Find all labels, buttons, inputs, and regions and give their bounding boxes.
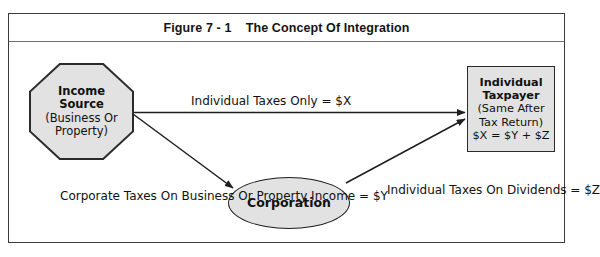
income-source-line-4: Property) xyxy=(55,125,108,138)
figure-title-bar: Figure 7 - 1 The Concept Of Integration xyxy=(9,14,564,42)
edge-label-individual-taxes-only: Individual Taxes Only = $X xyxy=(191,94,351,109)
individual-taxpayer-line-5: $X = $Y + $Z xyxy=(472,129,549,142)
income-source-line-2: Source xyxy=(59,98,104,111)
income-source-line-3: (Business Or xyxy=(45,112,118,125)
edge-label-corporate-taxes: Corporate Taxes On Business Or Property … xyxy=(60,189,388,204)
edge-label-individual-taxes-dividends-line-1: Individual Taxes xyxy=(387,183,482,197)
arrow-income-to-corporation xyxy=(133,114,233,188)
edge-label-individual-taxes-dividends-line-2: On Dividends = $Z xyxy=(486,183,600,197)
edge-label-corporate-taxes-line-2: Business Or Property xyxy=(182,189,308,203)
individual-taxpayer-line-2: Taxpayer xyxy=(482,89,539,102)
income-source-line-1: Income xyxy=(58,85,105,98)
node-income-source[interactable]: Income Source (Business Or Property) xyxy=(31,65,132,158)
edge-label-corporate-taxes-line-3: Income = $Y xyxy=(311,189,388,203)
node-individual-taxpayer[interactable]: Individual Taxpayer (Same After Tax Retu… xyxy=(467,66,555,152)
edge-label-corporate-taxes-line-1: Corporate Taxes On xyxy=(60,189,178,203)
individual-taxpayer-line-3: (Same After xyxy=(477,102,544,115)
individual-taxpayer-line-1: Individual xyxy=(479,76,542,89)
figure-frame: Figure 7 - 1 The Concept Of Integration … xyxy=(8,13,565,243)
arrow-corporation-to-taxpayer xyxy=(346,119,465,183)
diagram-canvas: Income Source (Business Or Property) Cor… xyxy=(9,42,564,242)
page-title: Figure 7 - 1 The Concept Of Integration xyxy=(164,21,410,35)
edge-label-individual-taxes-only-line-1: Individual Taxes Only = $X xyxy=(191,94,351,108)
individual-taxpayer-line-4: Tax Return) xyxy=(479,116,543,129)
edge-label-individual-taxes-dividends: Individual Taxes On Dividends = $Z xyxy=(387,183,600,198)
